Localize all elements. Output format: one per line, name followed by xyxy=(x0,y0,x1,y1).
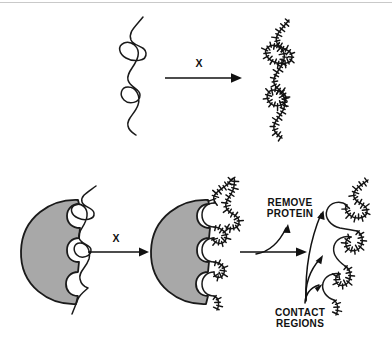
bottom-reaction-arrow-2: REMOVE PROTEIN xyxy=(240,197,313,257)
modification-tick xyxy=(283,105,288,106)
modification-tick xyxy=(275,87,276,92)
modification-tick xyxy=(272,37,279,38)
remove-protein-pointer-head xyxy=(283,224,290,233)
modification-tick xyxy=(361,241,367,242)
remove-protein-label-line1: REMOVE xyxy=(267,197,312,208)
modification-tick xyxy=(215,226,216,231)
figure-canvas: X X xyxy=(0,0,392,339)
dna-exposed-segments-middle xyxy=(213,178,239,310)
modification-tick xyxy=(224,205,230,207)
modification-tick xyxy=(220,270,226,271)
modification-tick xyxy=(218,240,219,245)
bottom-panel: X xyxy=(21,177,370,329)
modification-tick xyxy=(271,88,272,95)
top-reaction-arrow: X xyxy=(165,57,242,83)
modification-tick xyxy=(288,57,293,58)
top-right-modified-dna xyxy=(262,19,295,141)
dna-strand-left-complex xyxy=(71,186,96,314)
modification-tick xyxy=(354,249,355,254)
contact-pointer-1-head xyxy=(317,211,324,220)
modification-tick xyxy=(349,276,355,277)
remove-protein-pointer xyxy=(256,228,286,254)
dna-protected-seg-3 xyxy=(202,272,214,296)
bottom-reaction-arrow-1: X xyxy=(88,232,149,257)
modification-ticks-top xyxy=(262,19,295,141)
modification-tick xyxy=(349,195,356,196)
modification-tick xyxy=(233,225,234,230)
protein-blob-middle xyxy=(151,200,210,304)
modification-tick xyxy=(230,227,231,232)
modification-ticks-right xyxy=(332,178,369,314)
top-panel: X xyxy=(120,17,295,141)
modification-tick xyxy=(272,81,277,82)
top-arrow-label: X xyxy=(195,57,202,69)
top-left-unmodified-dna xyxy=(120,17,146,135)
bottom-middle-complex xyxy=(151,177,243,310)
modification-tick xyxy=(283,57,288,58)
modification-tick xyxy=(263,98,269,99)
bottom-left-complex xyxy=(21,186,96,314)
bottom-arrow-1-label: X xyxy=(112,232,119,244)
dna-protected-seg-2 xyxy=(202,238,214,262)
protein-blob-left xyxy=(21,200,80,304)
contact-regions-label-line1: CONTACT xyxy=(275,307,325,318)
dna-protected-seg-1 xyxy=(202,203,214,227)
modification-tick xyxy=(362,210,369,211)
contact-regions-label-line2: REGIONS xyxy=(276,318,324,329)
modification-tick xyxy=(264,53,270,54)
remove-protein-label-line2: PROTEIN xyxy=(267,208,314,219)
contact-region-pointers xyxy=(305,211,325,304)
modification-tick xyxy=(274,44,275,49)
figure-root: X X xyxy=(0,0,392,339)
modification-tick xyxy=(230,184,236,185)
modification-tick xyxy=(222,202,228,203)
bottom-right-dna xyxy=(323,178,370,315)
dna-modified-segments-right xyxy=(334,180,368,315)
